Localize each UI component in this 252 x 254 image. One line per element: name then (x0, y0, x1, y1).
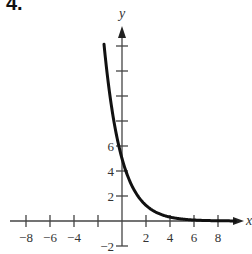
y-axis-arrow-icon (118, 26, 126, 38)
exponential-graph: xy−8−6−42468−2246 (0, 0, 252, 254)
x-tick-label: −4 (67, 230, 81, 245)
y-tick-label: −2 (100, 239, 114, 254)
x-tick-label: 8 (215, 230, 222, 245)
x-tick-label: 6 (191, 230, 198, 245)
x-tick-label: 4 (167, 230, 174, 245)
x-axis-label: x (245, 213, 252, 228)
y-axis-label: y (117, 6, 126, 21)
y-tick-label: 6 (108, 139, 115, 154)
y-tick-label: 2 (108, 189, 115, 204)
x-tick-label: −6 (43, 230, 57, 245)
x-tick-label: 2 (143, 230, 150, 245)
x-tick-label: −8 (19, 230, 33, 245)
y-tick-label: 4 (108, 164, 115, 179)
